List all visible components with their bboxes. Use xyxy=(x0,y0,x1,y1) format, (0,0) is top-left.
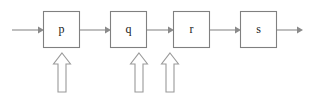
node-r[interactable]: r xyxy=(174,12,210,48)
flow-arrow-s-to-output xyxy=(277,27,303,34)
flow-arrow-r-to-s xyxy=(210,27,241,34)
block-arrow-under-p xyxy=(54,53,71,92)
node-s-label: s xyxy=(256,22,261,36)
block-arrow-under-r xyxy=(162,53,179,92)
diagram-canvas: p q r s xyxy=(0,0,314,95)
node-s[interactable]: s xyxy=(241,12,277,48)
node-q-label: q xyxy=(126,22,132,36)
flow-arrow-p-to-q xyxy=(80,27,111,34)
node-q[interactable]: q xyxy=(111,12,147,48)
node-p[interactable]: p xyxy=(44,12,80,48)
block-arrow-under-q xyxy=(131,53,148,92)
node-p-label: p xyxy=(59,22,65,36)
node-r-label: r xyxy=(190,22,194,36)
diagram-svg: p q r s xyxy=(0,0,314,95)
flow-arrow-q-to-r xyxy=(147,27,174,34)
flow-arrow-input-to-p xyxy=(12,27,44,34)
